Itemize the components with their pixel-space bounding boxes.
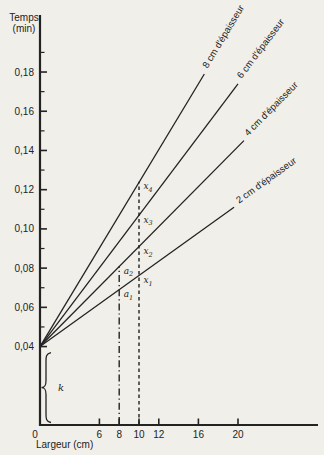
y-tick-label-4: 0,12	[15, 184, 35, 195]
x-tick-label-1: 8	[116, 429, 122, 440]
k-brace	[42, 353, 52, 423]
point-label-sub-a1: 1	[129, 294, 133, 302]
y-tick-label-7: 0,18	[15, 67, 35, 78]
series-label-2cm: 2 cm d'épaisseur	[234, 155, 298, 206]
point-label-x1: x1	[144, 275, 153, 288]
scanned-figure-page: 8 cm d'épaisseur6 cm d'épaisseur4 cm d'é…	[0, 0, 324, 455]
point-label-x2: x2	[144, 246, 153, 259]
data-lines: 8 cm d'épaisseur6 cm d'épaisseur4 cm d'é…	[40, 3, 300, 347]
y-axis-title-line1: Temps	[9, 12, 38, 23]
point-label-a1: a1	[124, 289, 134, 302]
x-tick-label-0: 6	[97, 429, 103, 440]
k-label: k	[58, 382, 64, 393]
point-label-sub-x4: 4	[148, 186, 153, 194]
x-tick-label-5: 20	[232, 429, 244, 440]
point-label-sub-x1: 1	[149, 280, 153, 288]
series-label-8cm: 8 cm d'épaisseur	[200, 3, 246, 70]
series-line-2cm	[40, 207, 234, 346]
y-tick-label-2: 0,08	[15, 263, 35, 274]
y-tick-label-1: 0,06	[15, 302, 35, 313]
y-axis-title-line2: (min)	[13, 23, 36, 34]
point-label-a2: a2	[124, 266, 134, 279]
point-label-x3: x3	[144, 215, 153, 228]
y-tick-label-3: 0,10	[15, 223, 35, 234]
x-tick-label-3: 12	[153, 429, 165, 440]
k-annotation: k	[42, 353, 65, 423]
x-tick-label-2: 10	[133, 429, 145, 440]
y-tick-label-5: 0,14	[15, 145, 35, 156]
axes: 0,040,060,080,100,120,140,160,1868101216…	[15, 15, 318, 440]
point-label-sub-a2: 2	[128, 270, 133, 278]
x-axis-title: Largeur (cm)	[36, 439, 93, 450]
series-label-6cm: 6 cm d'épaisseur	[234, 16, 286, 80]
series-line-8cm	[40, 74, 204, 347]
series-label-4cm: 4 cm d'épaisseur	[242, 79, 300, 138]
y-tick-label-6: 0,16	[15, 106, 35, 117]
x-tick-label-4: 16	[193, 429, 205, 440]
point-label-sub-x3: 3	[149, 219, 153, 227]
time-vs-width-chart: 8 cm d'épaisseur6 cm d'épaisseur4 cm d'é…	[0, 0, 324, 455]
series-line-4cm	[40, 141, 244, 347]
point-label-x4: x4	[144, 181, 153, 194]
point-label-sub-x2: 2	[148, 251, 153, 259]
y-tick-label-0: 0,04	[15, 341, 35, 352]
